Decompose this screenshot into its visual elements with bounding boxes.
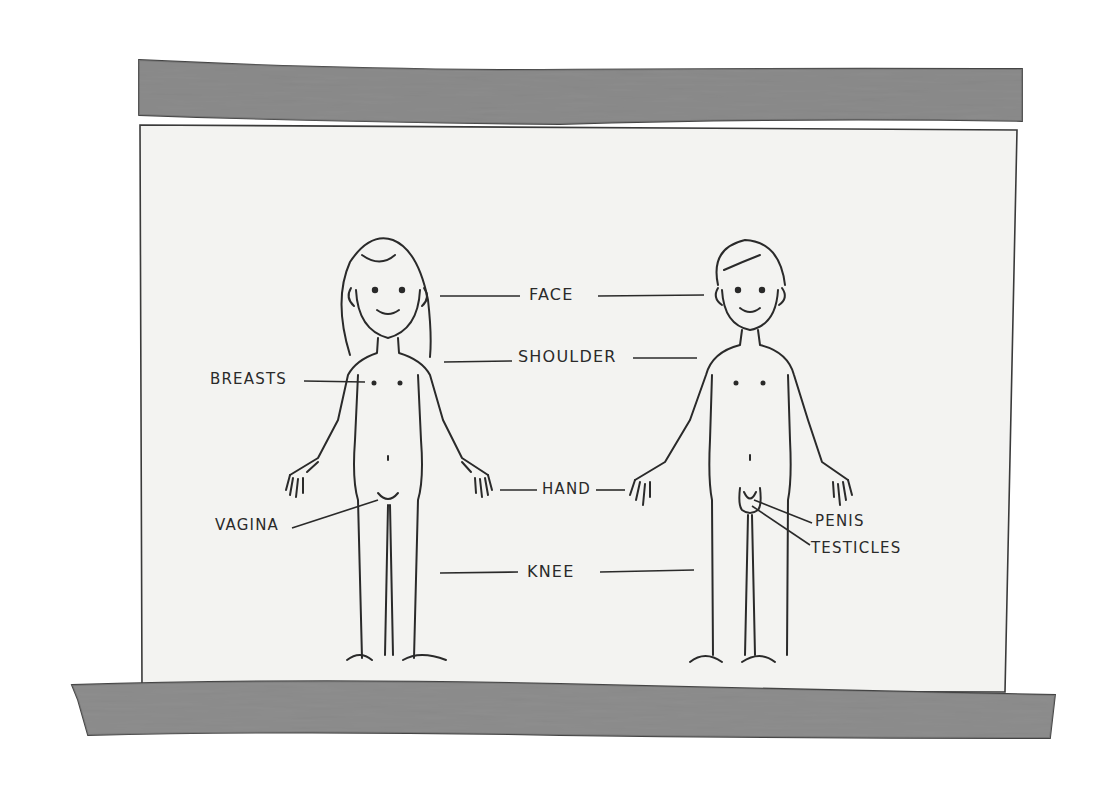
body-parts-chart: FACE SHOULDER BREASTS HAND VAGINA KNEE P… xyxy=(0,0,1117,792)
knee-line-left xyxy=(440,572,518,573)
label-testicles: TESTICLES xyxy=(811,541,901,556)
label-vagina: VAGINA xyxy=(215,518,279,533)
label-shoulder: SHOULDER xyxy=(518,349,617,365)
label-hand: HAND xyxy=(542,482,591,497)
label-breasts: BREASTS xyxy=(210,372,287,387)
label-penis: PENIS xyxy=(815,514,865,529)
label-face: FACE xyxy=(529,287,573,303)
chart-illustration xyxy=(0,0,1117,792)
breasts-line xyxy=(304,381,365,382)
label-knee: KNEE xyxy=(527,564,574,580)
chart-paper xyxy=(140,125,1017,692)
face-line-right xyxy=(598,295,704,296)
shoulder-line-left xyxy=(444,361,512,362)
top-roller-bar xyxy=(139,60,1022,124)
